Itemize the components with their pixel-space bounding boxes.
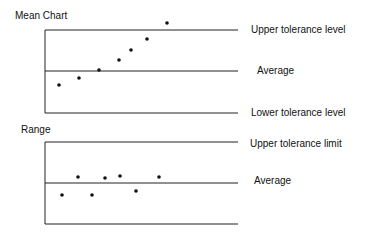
range-upper-label: Upper tolerance limit bbox=[250, 138, 342, 150]
mean-upper-label: Upper tolerance level bbox=[251, 24, 346, 36]
data-point bbox=[117, 58, 121, 62]
data-point bbox=[103, 176, 107, 180]
data-point bbox=[129, 48, 133, 52]
data-point bbox=[97, 68, 101, 72]
data-point bbox=[57, 83, 61, 87]
data-point bbox=[118, 174, 122, 178]
data-point bbox=[90, 193, 94, 197]
mean-chart-title: Mean Chart bbox=[15, 10, 67, 22]
data-point bbox=[77, 76, 81, 80]
data-point bbox=[134, 189, 138, 193]
data-point bbox=[60, 193, 64, 197]
mean-average-label: Average bbox=[257, 65, 294, 77]
range-average-label: Average bbox=[254, 175, 291, 187]
data-point bbox=[157, 175, 161, 179]
data-point bbox=[76, 175, 80, 179]
mean-lower-label: Lower tolerance level bbox=[251, 107, 346, 119]
data-point bbox=[145, 37, 149, 41]
data-point bbox=[165, 21, 169, 25]
range-chart-title: Range bbox=[21, 124, 50, 136]
